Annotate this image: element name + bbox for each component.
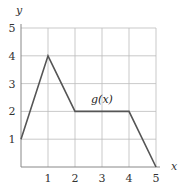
function-label: g(x) (91, 93, 113, 106)
x-tick-label: 3 (99, 172, 106, 185)
y-tick-label: 4 (9, 50, 16, 63)
x-axis-label: x (171, 160, 178, 173)
y-axis-label: y (15, 4, 23, 17)
line-chart: 1234512345 x y g(x) (0, 0, 184, 194)
x-tick-label: 2 (72, 172, 79, 185)
x-tick-label: 1 (45, 172, 52, 185)
y-tick-label: 3 (9, 78, 16, 91)
x-tick-label: 5 (153, 172, 160, 185)
tick-labels: 1234512345 (9, 22, 160, 185)
grid (21, 28, 156, 167)
y-tick-label: 1 (9, 133, 16, 146)
x-tick-label: 4 (126, 172, 133, 185)
y-tick-label: 5 (9, 22, 16, 35)
y-tick-label: 2 (9, 105, 16, 118)
